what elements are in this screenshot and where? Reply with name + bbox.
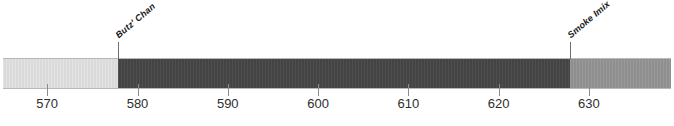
axis-tick (228, 84, 229, 96)
bar-segment-1 (3, 59, 118, 88)
timeline-bar (3, 58, 671, 89)
axis-tick (138, 84, 139, 96)
boundary-leader-line (570, 42, 571, 59)
axis-tick (408, 84, 409, 96)
axis-tick (47, 84, 48, 96)
timeline-chart: Butz' ChanSmoke Imix 5705805906006106206… (0, 0, 674, 126)
axis-tick-label: 590 (217, 96, 239, 111)
axis-tick-label: 630 (578, 96, 600, 111)
boundary-label: Butz' Chan (113, 1, 157, 40)
boundary-leader-line (118, 42, 119, 59)
axis-tick-label: 620 (488, 96, 510, 111)
axis-tick-label: 570 (36, 96, 58, 111)
axis-tick-label: 600 (307, 96, 329, 111)
axis-tick-label: 580 (127, 96, 149, 111)
bar-segment-2 (118, 59, 570, 88)
axis-tick (589, 84, 590, 96)
axis-tick (318, 84, 319, 96)
boundary-label: Smoke Imix (565, 0, 611, 40)
axis-tick-label: 610 (397, 96, 419, 111)
bar-segment-3 (570, 59, 671, 88)
axis-tick (499, 84, 500, 96)
